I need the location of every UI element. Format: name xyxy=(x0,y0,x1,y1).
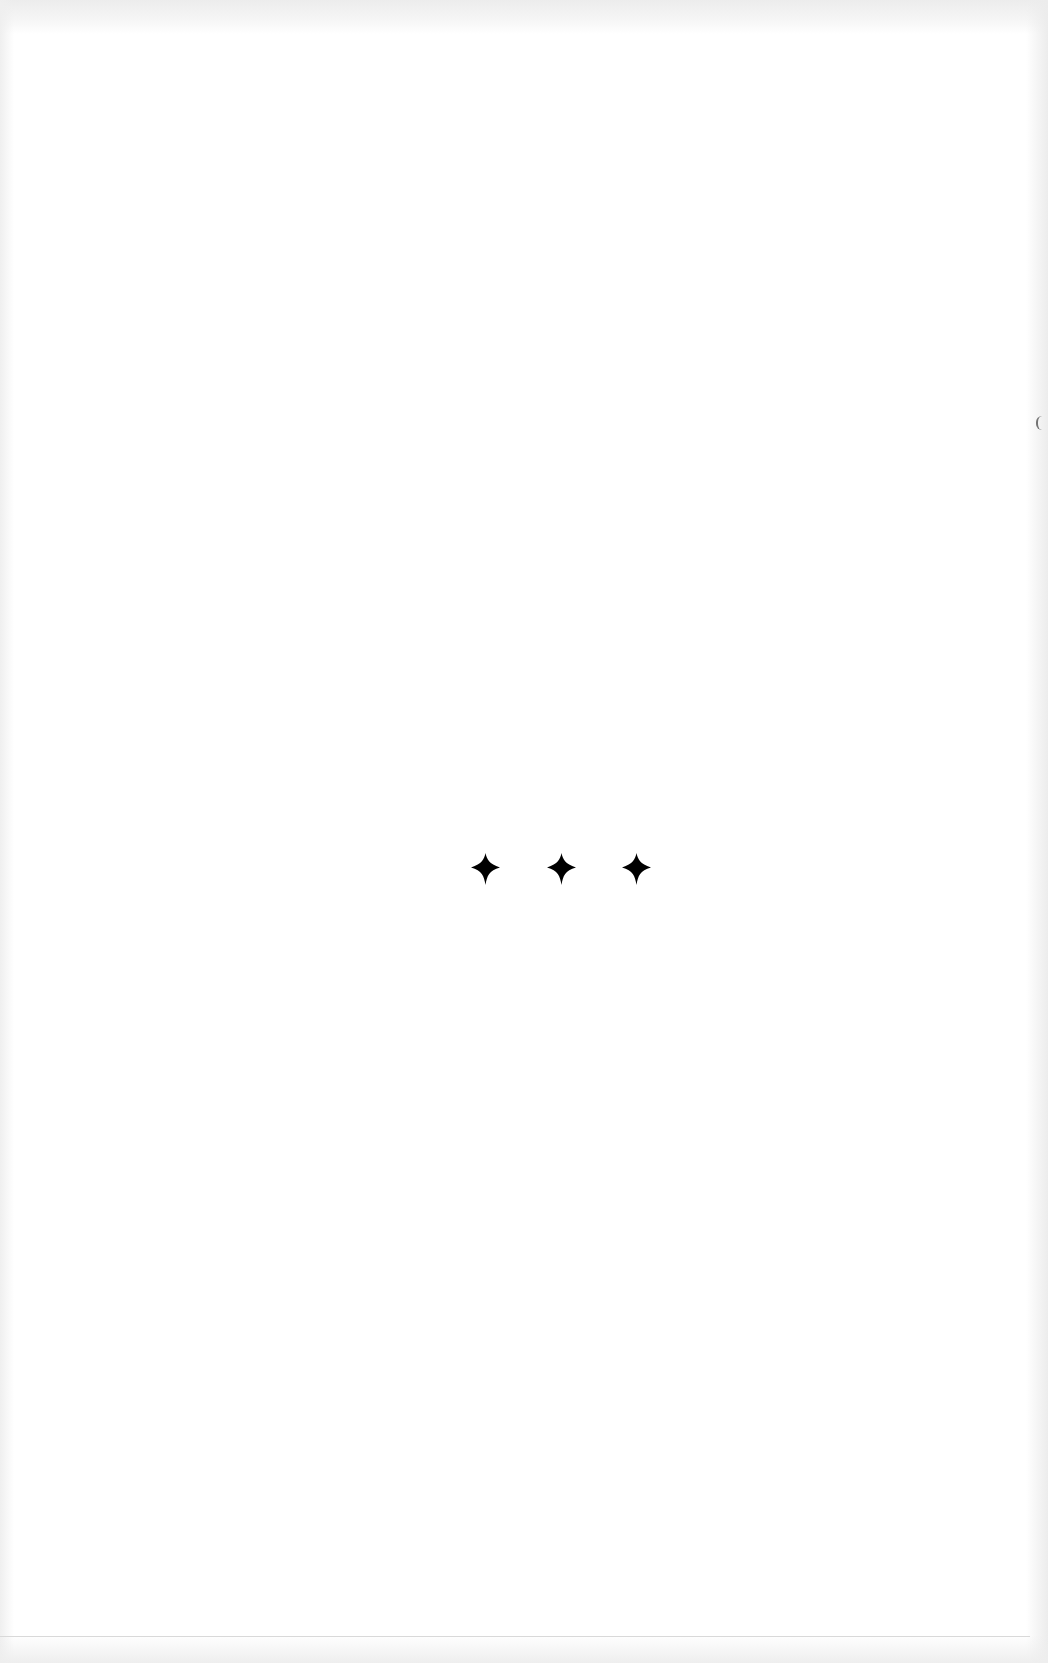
book-page: ✦ ✦ ✦ xyxy=(0,0,1048,1663)
four-pointed-star-icon xyxy=(470,852,501,886)
four-pointed-star-icon xyxy=(621,852,652,886)
scan-edge-right xyxy=(1026,0,1048,1663)
scan-edge-top xyxy=(0,0,1048,34)
section-break-ornament: ✦ ✦ ✦ xyxy=(470,852,652,886)
scan-edge-mark xyxy=(1036,416,1045,430)
scan-edge-left xyxy=(0,0,14,1663)
scan-edge-bottom xyxy=(0,1635,1048,1663)
four-pointed-star-icon xyxy=(546,852,577,886)
scan-rule-bottom xyxy=(0,1636,1030,1637)
